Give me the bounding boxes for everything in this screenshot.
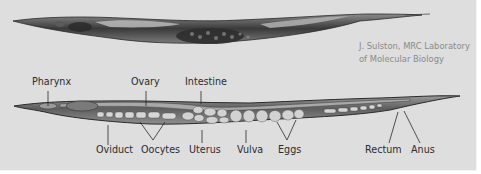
label-anus: Anus [411,144,435,155]
credit-line-2: of Molecular Biology [359,53,479,66]
credit-line-1: J. Sulston, MRC Laboratory [359,40,479,53]
label-rectum: Rectum [365,144,402,155]
worm-figure: J. Sulston, MRC Laboratory of Molecular … [0,0,477,171]
label-oviduct: Oviduct [96,144,133,155]
image-credit: J. Sulston, MRC Laboratory of Molecular … [359,40,479,65]
label-oocytes: Oocytes [141,144,180,155]
label-intestine: Intestine [185,76,227,87]
label-vulva: Vulva [237,144,263,155]
label-eggs: Eggs [278,144,301,155]
label-pharynx: Pharynx [32,76,71,87]
label-ovary: Ovary [131,76,160,87]
label-uterus: Uterus [189,144,221,155]
